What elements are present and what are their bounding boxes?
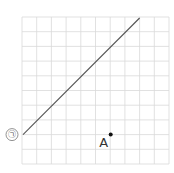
line-label: ㉠ [8,130,16,139]
line-segment [23,18,140,135]
grid-diagram: ㉠ A [0,0,174,173]
line-label-marker: ㉠ [6,129,18,141]
square-grid [22,17,169,164]
point-a-label: A [99,135,108,150]
point-a-dot [109,133,113,137]
